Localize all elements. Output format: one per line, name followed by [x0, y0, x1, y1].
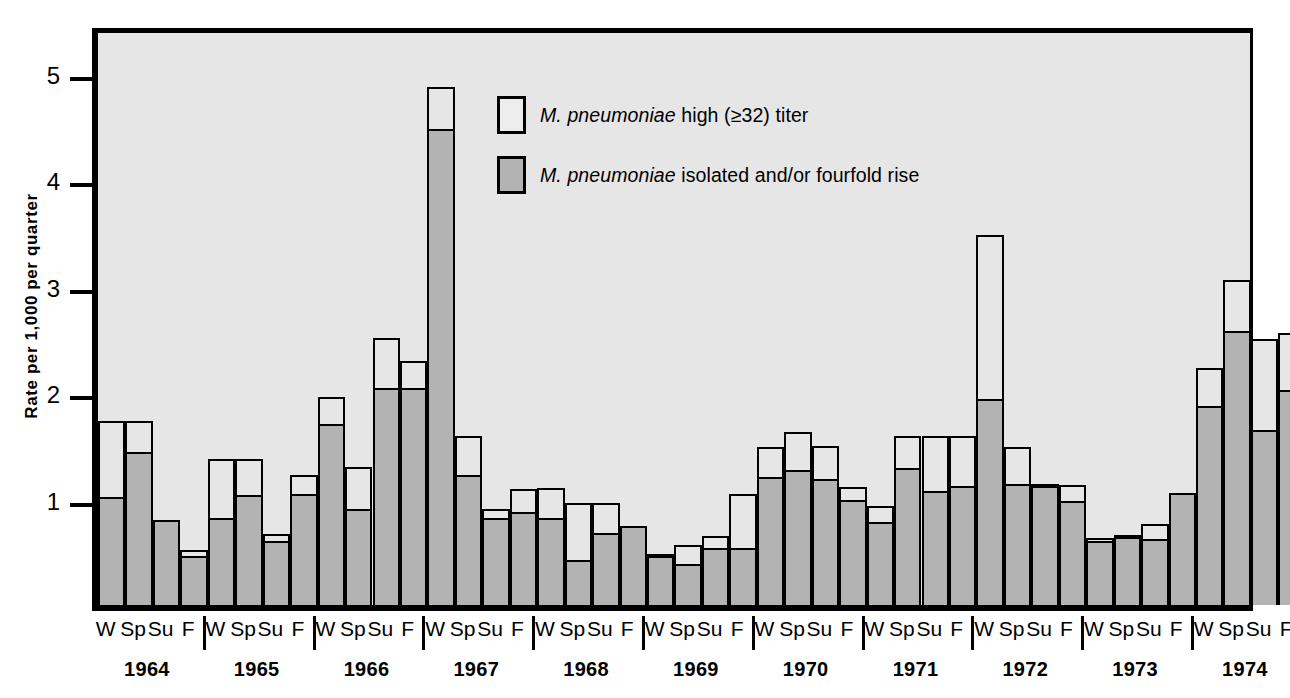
bar-1964-W — [98, 421, 125, 605]
bar-1964-F — [180, 550, 207, 605]
bar-1969-W — [647, 554, 674, 605]
y-tick-mark — [70, 503, 92, 507]
legend-swatch-open — [497, 96, 526, 134]
quarter-label-1967-F: F — [504, 617, 531, 641]
bar-1971-W — [867, 506, 894, 605]
quarter-label-1964-F: F — [174, 617, 201, 641]
year-label-1969: 1969 — [641, 658, 751, 681]
bar-segment-high-titer — [427, 87, 454, 131]
quarter-label-1974-Su: Su — [1245, 617, 1272, 641]
quarter-label-1972-F: F — [1053, 617, 1080, 641]
quarter-label-1968-F: F — [614, 617, 641, 641]
quarter-label-1972-W: W — [970, 617, 997, 641]
bar-segment-high-titer — [1059, 485, 1086, 503]
year-label-1968: 1968 — [531, 658, 641, 681]
legend-item-high-titer: M. pneumoniae high (≥32) titer — [497, 96, 919, 134]
bar-segment-high-titer — [1031, 484, 1058, 488]
bar-segment-high-titer — [1114, 535, 1141, 539]
quarter-label-1969-Su: Su — [696, 617, 723, 641]
quarter-label-1974-F: F — [1272, 617, 1290, 641]
bar-segment-high-titer — [949, 436, 976, 488]
bar-1973-Sp — [1114, 535, 1141, 605]
bar-segment-high-titer — [757, 447, 784, 479]
bar-segment-high-titer — [1223, 280, 1250, 333]
bar-1965-Sp — [235, 459, 262, 605]
quarter-label-1966-F: F — [394, 617, 421, 641]
quarter-label-1970-Su: Su — [806, 617, 833, 641]
quarter-label-1965-F: F — [284, 617, 311, 641]
bar-1966-Sp — [345, 467, 372, 605]
bar-segment-high-titer — [263, 534, 290, 544]
bar-segment-high-titer — [1196, 368, 1223, 408]
chart-legend: M. pneumoniae high (≥32) titerM. pneumon… — [497, 96, 919, 216]
quarter-label-1973-Sp: Sp — [1108, 617, 1135, 641]
quarter-label-1964-Sp: Sp — [119, 617, 146, 641]
legend-swatch-filled — [497, 156, 526, 194]
bar-1967-W — [427, 87, 454, 605]
bar-segment-high-titer — [839, 487, 866, 502]
bar-segment-high-titer — [510, 489, 537, 515]
quarter-label-1970-Sp: Sp — [778, 617, 805, 641]
bar-segment-high-titer — [647, 554, 674, 558]
y-tick-label: 3 — [20, 275, 60, 303]
bar-1970-W — [757, 447, 784, 605]
bar-segment-high-titer — [592, 503, 619, 535]
quarter-label-1969-Sp: Sp — [668, 617, 695, 641]
bar-1973-F — [1169, 493, 1196, 605]
bar-segment-high-titer — [180, 550, 207, 559]
bar-1971-F — [949, 436, 976, 605]
y-tick-mark — [70, 183, 92, 187]
quarter-label-1965-W: W — [202, 617, 229, 641]
bar-segment-high-titer — [373, 338, 400, 390]
y-tick-label: 1 — [20, 488, 60, 516]
quarter-label-1968-Su: Su — [586, 617, 613, 641]
y-tick-mark — [70, 77, 92, 81]
legend-label: M. pneumoniae high (≥32) titer — [540, 104, 808, 127]
bar-1969-Sp — [674, 545, 701, 605]
bar-1964-Su — [153, 520, 180, 605]
bar-1972-W — [976, 235, 1003, 605]
quarter-label-1966-Sp: Sp — [339, 617, 366, 641]
bar-1967-F — [510, 489, 537, 605]
quarter-label-1971-F: F — [943, 617, 970, 641]
bar-1968-Sp — [565, 503, 592, 605]
bar-1968-F — [620, 526, 647, 605]
quarter-label-1968-Sp: Sp — [559, 617, 586, 641]
bar-1967-Sp — [455, 436, 482, 605]
y-tick-label: 4 — [20, 168, 60, 196]
year-label-1974: 1974 — [1190, 658, 1290, 681]
quarter-label-1973-Su: Su — [1135, 617, 1162, 641]
bar-segment-high-titer — [1251, 339, 1278, 433]
bar-1965-Su — [263, 534, 290, 605]
bar-1975-W — [1278, 333, 1290, 605]
bar-segment-high-titer — [318, 397, 345, 426]
legend-item-isolated: M. pneumoniae isolated and/or fourfold r… — [497, 156, 919, 194]
bar-segment-high-titer — [812, 446, 839, 481]
bar-segment-high-titer — [235, 459, 262, 497]
bar-1972-Su — [1031, 484, 1058, 605]
bar-1971-Su — [922, 436, 949, 605]
quarter-label-1971-Su: Su — [916, 617, 943, 641]
year-label-1971: 1971 — [861, 658, 971, 681]
bar-1965-W — [208, 459, 235, 605]
bar-1972-Sp — [1004, 447, 1031, 605]
quarter-label-1967-Sp: Sp — [449, 617, 476, 641]
bar-1966-W — [318, 397, 345, 605]
bar-1966-Su — [373, 338, 400, 605]
quarter-label-1971-W: W — [861, 617, 888, 641]
bar-segment-high-titer — [482, 509, 509, 520]
quarter-label-1966-Su: Su — [367, 617, 394, 641]
bar-1968-W — [537, 488, 564, 605]
bar-segment-high-titer — [702, 536, 729, 550]
bar-1966-F — [400, 361, 427, 605]
quarter-label-1974-Sp: Sp — [1217, 617, 1244, 641]
bar-segment-high-titer — [867, 506, 894, 524]
bar-1973-W — [1086, 538, 1113, 605]
quarter-label-1972-Sp: Sp — [998, 617, 1025, 641]
bar-segment-high-titer — [674, 545, 701, 565]
y-tick-label: 5 — [20, 62, 60, 90]
bar-segment-high-titer — [98, 421, 125, 499]
chart-figure: Rate per 1,000 per quarter 12345 M. pneu… — [0, 0, 1290, 698]
bar-1972-F — [1059, 485, 1086, 605]
x-axis: WSpSuF1964WSpSuF1965WSpSuF1966WSpSuF1967… — [92, 617, 1253, 695]
